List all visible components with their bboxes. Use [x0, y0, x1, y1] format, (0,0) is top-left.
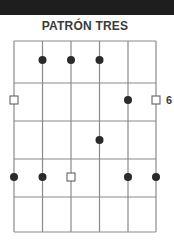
note-dot: [124, 173, 132, 181]
side-label: 6: [166, 94, 172, 106]
root-note-square: [152, 96, 160, 104]
note-dot: [39, 173, 47, 181]
fretboard-diagram: [0, 0, 174, 249]
note-dot: [96, 56, 104, 64]
note-dot: [96, 136, 104, 144]
root-note-square: [67, 173, 75, 181]
note-dot: [152, 173, 160, 181]
note-dot: [124, 96, 132, 104]
note-dot: [10, 173, 18, 181]
note-dot: [39, 56, 47, 64]
root-note-square: [10, 96, 18, 104]
note-dot: [67, 56, 75, 64]
